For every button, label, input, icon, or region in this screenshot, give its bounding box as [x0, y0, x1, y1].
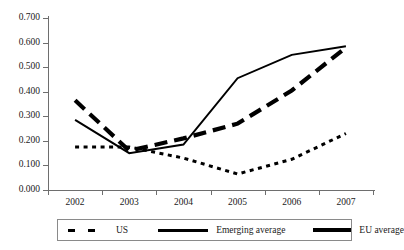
series-line-eu-average	[75, 47, 346, 150]
series-line-emerging-average	[75, 46, 346, 153]
legend-label-us: US	[116, 225, 128, 235]
dotted-line-marker-icon	[66, 225, 110, 235]
solid-line-marker-icon	[156, 225, 210, 235]
legend-item-us[interactable]: US	[58, 220, 128, 240]
legend-label-eu-average: EU average	[359, 225, 404, 235]
series-line-us	[75, 133, 346, 174]
legend-label-emerging-average: Emerging average	[216, 225, 285, 235]
chart-legend: US Emerging average EU average	[57, 219, 352, 241]
thick-dashed-line-marker-icon	[311, 225, 353, 235]
legend-item-emerging-average[interactable]: Emerging average	[148, 220, 285, 240]
legend-item-eu-average[interactable]: EU average	[303, 220, 404, 240]
